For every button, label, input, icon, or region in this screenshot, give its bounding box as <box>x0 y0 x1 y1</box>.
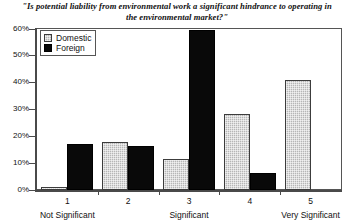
bar-domestic-5 <box>285 80 311 190</box>
bar-chart: "Is potential liability from environment… <box>0 0 351 224</box>
y-axis-tick-label: 30% <box>1 105 29 113</box>
legend-label-domestic: Domestic <box>56 34 91 43</box>
x-axis-tick <box>280 191 281 195</box>
bar-domestic-4 <box>224 114 250 190</box>
x-axis-tick <box>159 191 160 195</box>
bar-domestic-1 <box>41 187 67 190</box>
y-axis-tick <box>29 82 35 83</box>
y-axis-tick <box>29 190 35 191</box>
bar-foreign-2 <box>128 146 154 190</box>
x-axis-anchor-label: Not Significant <box>12 210 122 220</box>
chart-legend: Domestic Foreign <box>40 30 96 56</box>
y-axis-tick-label: 40% <box>1 78 29 86</box>
y-axis-tick-label: 60% <box>1 25 29 33</box>
bar-foreign-3 <box>189 30 215 190</box>
y-axis-tick-label: 10% <box>1 159 29 167</box>
x-axis-category-label: 3 <box>169 196 209 206</box>
x-axis-category-label: 5 <box>291 196 331 206</box>
x-axis-line <box>35 190 342 192</box>
x-axis-anchor-label: Very Significant <box>256 210 351 220</box>
y-axis-tick-label: 20% <box>1 132 29 140</box>
x-axis-category-label: 1 <box>47 196 87 206</box>
y-axis-tick <box>29 29 35 30</box>
x-axis-tick <box>98 191 99 195</box>
x-axis-tick <box>219 191 220 195</box>
x-axis-category-label: 2 <box>108 196 148 206</box>
y-axis-tick <box>29 136 35 137</box>
bar-domestic-2 <box>102 142 128 190</box>
bar-foreign-1 <box>67 144 93 190</box>
y-axis-tick <box>29 163 35 164</box>
x-axis-category-label: 4 <box>230 196 270 206</box>
bar-foreign-4 <box>250 173 276 190</box>
bar-domestic-3 <box>163 159 189 190</box>
y-axis-tick <box>29 109 35 110</box>
chart-title: "Is potential liability from environment… <box>18 1 336 22</box>
legend-item-domestic: Domestic <box>44 33 91 43</box>
x-axis-anchor-label: Significant <box>134 210 244 220</box>
y-axis-tick <box>29 55 35 56</box>
legend-item-foreign: Foreign <box>44 43 91 53</box>
y-axis-tick-label: 50% <box>1 51 29 59</box>
y-axis-tick-label: 0% <box>1 186 29 194</box>
legend-swatch-domestic-icon <box>44 34 52 42</box>
legend-label-foreign: Foreign <box>56 44 85 53</box>
legend-swatch-foreign-icon <box>44 44 52 52</box>
